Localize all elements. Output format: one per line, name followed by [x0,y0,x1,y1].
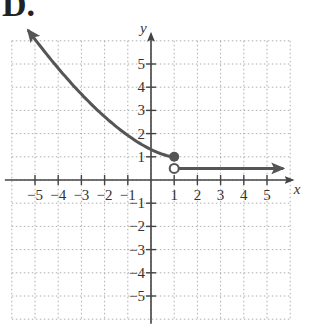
curve-left-piece [28,30,174,157]
x-tick-label: 3 [217,187,225,203]
closed-dot [169,152,179,162]
y-tick-label: −5 [129,288,145,304]
y-tick-label: 1 [138,149,146,165]
y-tick-label: 3 [138,102,146,118]
y-tick-label: 5 [138,56,146,72]
y-tick-label: 4 [138,79,146,95]
x-axis-label: x [293,181,301,197]
y-tick-label: −1 [129,195,145,211]
open-dot [170,164,179,173]
y-tick-label: 2 [138,126,146,142]
y-tick-label: −4 [129,265,145,281]
graph: xy−5−4−3−2−112345−5−4−3−2−112345 [0,0,319,329]
x-tick-label: 4 [240,187,248,203]
x-tick-label: 5 [263,187,271,203]
x-tick-label: 2 [194,187,202,203]
x-tick-label: −5 [27,187,43,203]
x-tick-label: −3 [73,187,89,203]
x-tick-label: −4 [50,187,66,203]
y-tick-label: −3 [129,242,145,258]
x-tick-label: −2 [97,187,113,203]
y-axis-label: y [138,20,147,36]
x-tick-label: 1 [170,187,178,203]
y-tick-label: −2 [129,218,145,234]
